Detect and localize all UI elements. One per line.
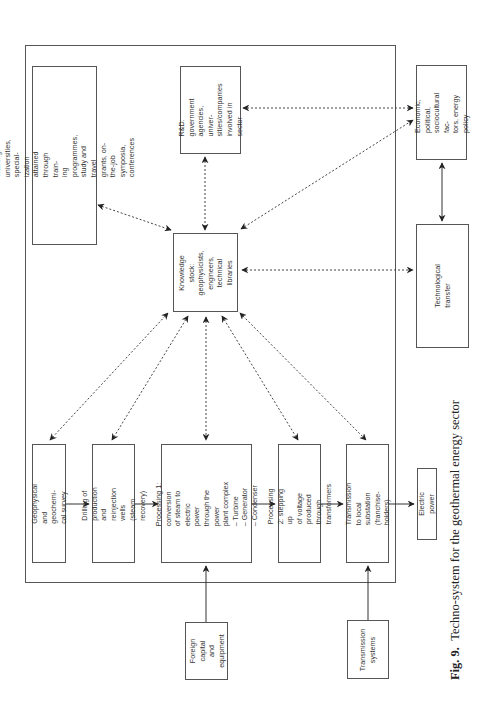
node-transmission-local: Transmission to local substation (franch… xyxy=(346,444,389,563)
node-geophysical-survey: Geophysical and geochemi- cal survey xyxy=(32,444,66,563)
node-geophysical-label: Geophysical and geochemi- cal survey xyxy=(30,484,68,524)
node-processing2-label: Processing 2: stepping up of voltage pro… xyxy=(266,483,333,523)
node-processing-2: Processing 2: stepping up of voltage pro… xyxy=(278,444,321,563)
node-economic: Economic, political, sociocultural fac- … xyxy=(416,65,467,160)
node-electric-power-label: Electric power xyxy=(417,492,436,516)
figure-caption-text: Techno-system for the geothermal energy … xyxy=(448,400,462,641)
node-drilling: Drilling of production and reinjection w… xyxy=(92,444,135,563)
node-transmission-systems: Transmission systems xyxy=(347,620,389,679)
node-training: Training: universities, special- ization… xyxy=(32,66,97,245)
node-electric-power: Electric power xyxy=(417,468,437,540)
node-rnd-label: R&D: government agencies, univer- sities… xyxy=(177,83,244,136)
node-processing1-label: Processing 1: conversion of steam to ele… xyxy=(154,481,260,526)
node-processing-1: Processing 1: conversion of steam to ele… xyxy=(161,444,252,563)
figure-caption: Fig. 9. Techno-system for the geothermal… xyxy=(448,400,463,680)
node-transmission-systems-label: Transmission systems xyxy=(358,628,377,670)
figure-caption-label: Fig. 9. xyxy=(448,647,462,680)
node-knowledge-label: Knowledge stock: geophysicists, engineer… xyxy=(177,250,235,295)
node-tech-transfer: Technological transfer xyxy=(416,224,469,348)
node-training-label: Training: universities, special- ization… xyxy=(0,134,136,176)
node-knowledge-stock: Knowledge stock: geophysicists, engineer… xyxy=(173,233,238,312)
node-transmission-local-label: Transmission to local substation (franch… xyxy=(344,482,392,524)
node-foreign-capital-label: Foreign capital and equipment xyxy=(187,634,225,668)
node-economic-label: Economic, political, sociocultural fac- … xyxy=(413,93,471,133)
node-foreign-capital: Foreign capital and equipment xyxy=(185,622,228,680)
node-tech-transfer-label: Technological transfer xyxy=(433,264,452,308)
node-rnd: R&D: government agencies, univer- sities… xyxy=(180,66,241,154)
node-drilling-label: Drilling of production and reinjection w… xyxy=(80,487,147,521)
